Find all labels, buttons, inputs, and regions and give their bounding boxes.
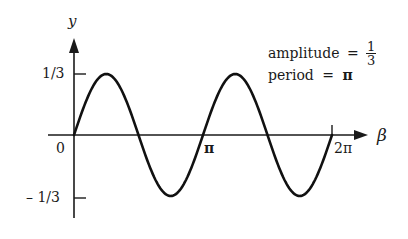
amplitude-label: amplitude	[268, 45, 339, 61]
amplitude-numerator: 1	[366, 40, 376, 54]
amplitude-equals: =	[347, 45, 359, 61]
x-tick-label-2pi: 2π	[334, 140, 352, 156]
sine-plot	[0, 0, 408, 239]
y-tick-label-bottom: – 1/3	[26, 189, 60, 205]
x-axis-arrow-icon	[354, 130, 368, 140]
y-axis-arrow-icon	[69, 38, 79, 53]
amplitude-annotation: amplitude = 1 3	[268, 40, 376, 67]
y-axis-label: y	[68, 12, 76, 30]
x-tick-label-zero: 0	[56, 140, 65, 156]
amplitude-denominator: 3	[366, 54, 376, 67]
y-tick-label-top: 1/3	[42, 65, 65, 81]
period-annotation: period = π	[268, 67, 353, 83]
amplitude-fraction: 1 3	[366, 40, 376, 67]
period-label: period	[268, 67, 314, 83]
period-equals: =	[322, 67, 334, 83]
period-value: π	[342, 67, 352, 83]
x-axis-label: β	[377, 125, 387, 145]
x-tick-label-pi: π	[204, 140, 214, 156]
